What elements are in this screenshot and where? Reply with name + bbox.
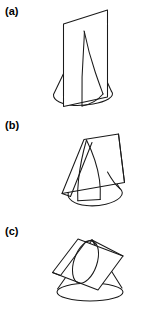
conic-sections-figure: (a) (b) — [0, 0, 154, 315]
panel-a: (a) — [0, 0, 154, 112]
panel-c: (c) — [0, 218, 154, 315]
cutting-plane-c — [53, 239, 124, 290]
plane-bottom-left-edge-b — [62, 194, 71, 197]
panel-b-drawing — [0, 112, 154, 218]
panel-c-drawing — [0, 218, 154, 315]
cutting-plane-a — [64, 10, 108, 107]
parabola-section-chord-b — [78, 200, 100, 201]
cutting-plane-b — [62, 134, 125, 194]
panel-a-drawing — [0, 0, 154, 112]
cone-base-front-arc-b — [87, 189, 123, 206]
panel-b: (b) — [0, 112, 154, 218]
